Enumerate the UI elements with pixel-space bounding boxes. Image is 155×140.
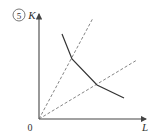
figure-number: 5 [17, 11, 22, 21]
ray-shallow [39, 60, 137, 119]
x-axis-label: L [141, 121, 148, 133]
ray-steep [39, 18, 93, 119]
figure-number-badge: 5 [13, 9, 25, 21]
origin-label: 0 [28, 122, 33, 133]
isoquant-curve [62, 34, 124, 98]
chart-canvas: 5 K L 0 [0, 0, 155, 140]
y-axis-label: K [27, 9, 36, 21]
